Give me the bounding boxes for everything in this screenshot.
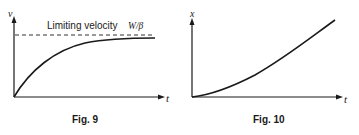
fig10-ylabel: x: [189, 8, 195, 19]
fig9-xlabel: t: [166, 92, 170, 104]
fig10-x-arrow-icon: [336, 95, 343, 100]
fig10: x t Fig. 10: [189, 8, 348, 125]
fig10-caption: Fig. 10: [253, 114, 285, 125]
fig9-caption: Fig. 9: [72, 114, 99, 125]
figure-canvas: v t Limiting velocity W/β Fig. 9 x t Fig…: [0, 0, 359, 135]
fig10-curve: [192, 20, 335, 97]
fig9: v t Limiting velocity W/β Fig. 9: [8, 8, 170, 125]
fig9-ylabel: v: [8, 8, 13, 19]
fig9-x-arrow-icon: [158, 95, 165, 100]
fig10-y-arrow-icon: [190, 18, 195, 25]
fig10-xlabel: t: [344, 93, 348, 105]
fig9-curve: [14, 38, 155, 97]
fig9-annotation: Limiting velocity: [47, 20, 118, 31]
fig9-annotation-math: W/β: [128, 21, 144, 31]
